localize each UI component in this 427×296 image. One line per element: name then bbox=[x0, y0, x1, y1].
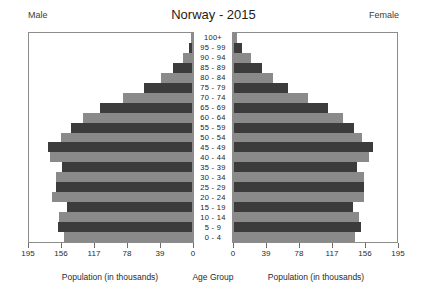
male-bar-75-79 bbox=[144, 83, 192, 93]
male-bar-100 bbox=[191, 33, 192, 43]
age-group-label: 90 - 94 bbox=[194, 52, 232, 62]
female-bar-65-69 bbox=[234, 103, 328, 113]
axis-tick-label: 156 bbox=[358, 249, 371, 258]
male-bar-40-44 bbox=[50, 152, 192, 162]
age-group-label: 50 - 54 bbox=[194, 132, 232, 142]
female-bar-30-34 bbox=[234, 172, 364, 182]
age-group-label: 10 - 14 bbox=[194, 213, 232, 223]
axis-tick-label: 156 bbox=[54, 249, 67, 258]
male-bar-55-59 bbox=[71, 123, 192, 133]
bar-row bbox=[29, 162, 192, 172]
bar-row bbox=[29, 63, 192, 73]
bar-row bbox=[234, 162, 397, 172]
bar-row bbox=[29, 83, 192, 93]
axis-tick bbox=[127, 243, 128, 248]
bar-row bbox=[234, 182, 397, 192]
female-x-axis: 03978117156195 bbox=[233, 243, 398, 263]
age-group-label: 55 - 59 bbox=[194, 122, 232, 132]
population-pyramid-chart: Male Norway - 2015 Female 100+95 - 9990 … bbox=[0, 0, 427, 296]
bar-row bbox=[29, 182, 192, 192]
bar-row bbox=[234, 103, 397, 113]
female-bar-95-99 bbox=[234, 43, 242, 53]
male-bar-85-89 bbox=[173, 63, 192, 73]
age-group-label: 75 - 79 bbox=[194, 82, 232, 92]
age-group-axis-column: 100+95 - 9990 - 9485 - 8980 - 8475 - 797… bbox=[193, 32, 233, 243]
bar-row bbox=[234, 232, 397, 242]
male-bar-90-94 bbox=[183, 53, 192, 63]
axis-tick bbox=[365, 243, 366, 248]
age-group-label: 0 - 4 bbox=[194, 233, 232, 243]
female-bar-10-14 bbox=[234, 212, 359, 222]
axis-tick bbox=[332, 243, 333, 248]
bar-row bbox=[29, 192, 192, 202]
left-axis-caption: Population (in thousands) bbox=[62, 272, 158, 282]
age-group-label: 25 - 29 bbox=[194, 183, 232, 193]
axis-tick bbox=[266, 243, 267, 248]
age-group-label: 30 - 34 bbox=[194, 173, 232, 183]
female-bar-0-4 bbox=[234, 232, 355, 242]
bar-row bbox=[29, 222, 192, 232]
female-bar-rows bbox=[234, 33, 397, 242]
bar-row bbox=[29, 113, 192, 123]
axis-tick bbox=[61, 243, 62, 248]
female-side-label: Female bbox=[369, 10, 399, 20]
age-group-label: 45 - 49 bbox=[194, 143, 232, 153]
male-bar-30-34 bbox=[56, 172, 192, 182]
female-bar-20-24 bbox=[234, 192, 364, 202]
male-bar-95-99 bbox=[189, 43, 192, 53]
male-bar-70-74 bbox=[123, 93, 192, 103]
male-bar-60-64 bbox=[83, 113, 193, 123]
axis-tick-label: 78 bbox=[123, 249, 132, 258]
bar-row bbox=[234, 113, 397, 123]
bar-row bbox=[29, 133, 192, 143]
bar-row bbox=[29, 202, 192, 212]
bar-row bbox=[29, 212, 192, 222]
bar-row bbox=[234, 172, 397, 182]
male-bar-45-49 bbox=[48, 142, 192, 152]
age-group-label: 95 - 99 bbox=[194, 42, 232, 52]
female-bar-15-19 bbox=[234, 202, 353, 212]
age-group-label: 65 - 69 bbox=[194, 102, 232, 112]
age-group-label: 35 - 39 bbox=[194, 163, 232, 173]
age-group-label: 80 - 84 bbox=[194, 72, 232, 82]
axis-tick bbox=[160, 243, 161, 248]
female-bar-55-59 bbox=[234, 123, 354, 133]
bar-row bbox=[234, 93, 397, 103]
female-bar-60-64 bbox=[234, 113, 343, 123]
male-bar-10-14 bbox=[59, 212, 192, 222]
axis-tick-label: 39 bbox=[262, 249, 271, 258]
female-bar-45-49 bbox=[234, 142, 373, 152]
bar-row bbox=[234, 83, 397, 93]
bar-row bbox=[29, 152, 192, 162]
axis-tick bbox=[299, 243, 300, 248]
axis-tick-label: 39 bbox=[156, 249, 165, 258]
bar-row bbox=[234, 63, 397, 73]
axis-tick bbox=[233, 243, 234, 248]
bar-row bbox=[29, 123, 192, 133]
chart-title: Norway - 2015 bbox=[0, 7, 427, 22]
bar-row bbox=[234, 123, 397, 133]
male-bar-5-9 bbox=[58, 222, 192, 232]
female-bar-80-84 bbox=[234, 73, 273, 83]
age-group-label: 5 - 9 bbox=[194, 223, 232, 233]
axis-tick-label: 78 bbox=[295, 249, 304, 258]
axis-tick bbox=[193, 243, 194, 248]
male-bar-15-19 bbox=[67, 202, 192, 212]
right-axis-caption: Population (in thousands) bbox=[268, 272, 364, 282]
female-bar-100 bbox=[234, 33, 237, 43]
male-bar-20-24 bbox=[52, 192, 192, 202]
age-group-label: 20 - 24 bbox=[194, 193, 232, 203]
axis-tick-label: 0 bbox=[191, 249, 195, 258]
bar-row bbox=[29, 93, 192, 103]
male-bar-65-69 bbox=[100, 103, 192, 113]
bar-row bbox=[29, 142, 192, 152]
axis-tick bbox=[398, 243, 399, 248]
age-group-label: 100+ bbox=[194, 32, 232, 42]
female-bar-85-89 bbox=[234, 63, 262, 73]
bar-row bbox=[29, 33, 192, 43]
center-axis-caption: Age Group bbox=[192, 272, 233, 282]
female-bars-panel bbox=[233, 32, 398, 243]
male-bar-50-54 bbox=[61, 133, 192, 143]
bar-row bbox=[234, 152, 397, 162]
bar-row bbox=[234, 192, 397, 202]
